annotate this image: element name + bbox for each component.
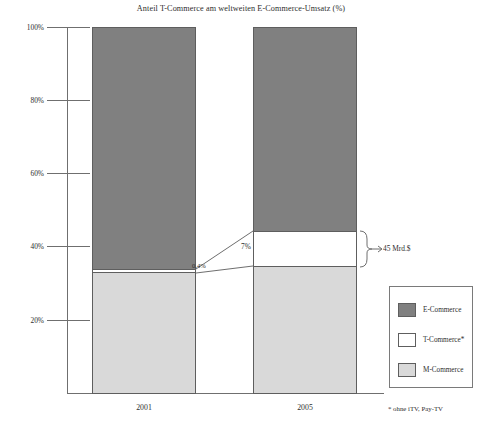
x-axis-label-2001: 2001 (136, 403, 152, 412)
bar-segment-m-commerce-2005 (253, 266, 357, 394)
bar-segment-e-commerce-2001 (92, 27, 196, 270)
y-axis-label-100: 100% (6, 23, 44, 32)
y-axis-tick-20 (47, 320, 90, 321)
bar-segment-m-commerce-2001 (92, 272, 196, 394)
y-axis-label-20: 20% (6, 316, 44, 325)
annotation-t-commerce-2001: 0,4% (192, 262, 206, 269)
legend-item-t-commerce: T-Commerce* (398, 331, 472, 349)
bar-segment-t-commerce-2005 (253, 231, 357, 267)
y-axis-tick-60 (47, 173, 90, 174)
y-axis-tick-80 (47, 100, 90, 101)
bar-segment-e-commerce-2005 (253, 27, 357, 232)
y-axis-label-40: 40% (6, 242, 44, 251)
chart-footnote: * ohne iTV, Pay-TV (388, 405, 443, 412)
chart-container: Anteil T-Commerce am weltweiten E-Commer… (0, 0, 482, 432)
y-axis-line (67, 27, 68, 394)
y-axis-tick-100 (47, 27, 90, 28)
y-axis-label-60: 60% (6, 169, 44, 178)
legend-swatch-t-commerce (398, 333, 416, 347)
legend-item-e-commerce: E-Commerce (398, 301, 472, 319)
legend-swatch-e-commerce (398, 303, 416, 317)
chart-legend: E-Commerce T-Commerce* M-Commerce (389, 286, 473, 388)
bar-group-2001 (92, 0, 196, 432)
annotation-t-commerce-2005: 7% (241, 242, 251, 251)
legend-label-t-commerce: T-Commerce* (423, 336, 464, 344)
y-axis-label-80: 80% (6, 96, 44, 105)
legend-swatch-m-commerce (398, 363, 416, 377)
legend-item-m-commerce: M-Commerce (398, 361, 472, 379)
chart-title: Anteil T-Commerce am weltweiten E-Commer… (0, 4, 482, 13)
legend-label-m-commerce: M-Commerce (423, 366, 463, 374)
annotation-revenue-2005: 45 Mrd.$ (383, 244, 411, 253)
x-axis-label-2005: 2005 (297, 403, 313, 412)
legend-label-e-commerce: E-Commerce (423, 306, 461, 314)
bar-group-2005 (253, 0, 357, 432)
y-axis-tick-40 (47, 246, 90, 247)
